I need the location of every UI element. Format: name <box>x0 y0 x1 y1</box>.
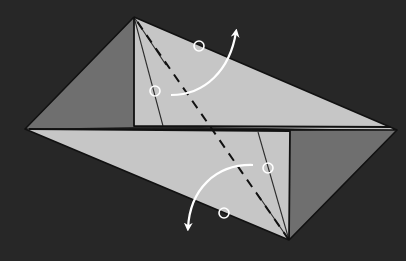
origami-diagram <box>0 0 406 261</box>
diagram-canvas <box>0 0 406 261</box>
